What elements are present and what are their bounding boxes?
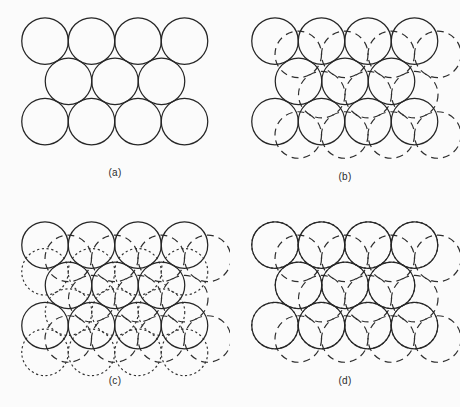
layer-b-circles (275, 235, 460, 362)
panel-c: (c) (0, 204, 230, 407)
panel-d-label: (d) (230, 375, 460, 386)
panel-a: (a) (0, 0, 230, 203)
close-packing-figure: (a) (b) (c) (d) (0, 0, 460, 407)
layer-a-circles (252, 18, 438, 145)
layer-b-circles (45, 235, 230, 362)
panel-b: (b) (230, 0, 460, 203)
panel-a-label: (a) (0, 167, 230, 178)
panel-b-label: (b) (230, 171, 460, 182)
layer-a-circles (252, 222, 438, 349)
layer-a-circles (22, 18, 208, 145)
panel-d: (d) (230, 204, 460, 407)
layer-a-circles (22, 222, 208, 349)
layer-b-circles (275, 31, 460, 158)
panel-c-label: (c) (0, 375, 230, 386)
